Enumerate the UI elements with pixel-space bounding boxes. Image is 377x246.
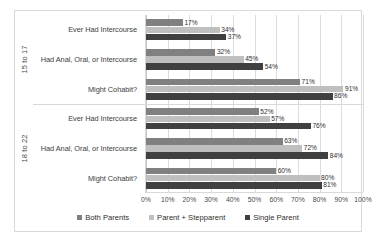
x-axis-tick-label: 40% [226, 196, 240, 203]
category-label: Might Cohabit? [33, 163, 141, 193]
category-label: Had Anal, Oral, or Intercourse [33, 45, 141, 75]
x-axis-tick-label: 10% [161, 196, 175, 203]
bar [146, 19, 183, 26]
bar [146, 27, 220, 34]
bar-value-label: 45% [245, 56, 258, 63]
category-label-text: Had Anal, Oral, or Intercourse [41, 144, 137, 153]
category-label-text: Might Cohabit? [88, 85, 137, 94]
legend-label: Single Parent [253, 213, 299, 222]
chart-plot-wrapper: 15 to 1718 to 22 Ever Had IntercourseHad… [15, 11, 361, 231]
x-axis-tick-label: 20% [183, 196, 197, 203]
group-axis-label-1: 15 to 17 [17, 15, 33, 104]
bar [146, 93, 333, 100]
gridline [363, 15, 364, 192]
group-axis: 15 to 1718 to 22 [17, 15, 33, 193]
bar [146, 63, 263, 70]
bar-group: 52%57%76% [146, 104, 363, 134]
bar-value-label: 76% [312, 123, 325, 130]
bars-plot-area: 17%34%37%32%45%54%71%91%86%52%57%76%63%7… [146, 15, 363, 193]
bar-value-label: 84% [330, 153, 343, 160]
bar [146, 138, 283, 145]
bar-value-label: 60% [278, 168, 291, 175]
bar [146, 56, 244, 63]
x-axis-tick-label: 90% [334, 196, 348, 203]
bar [146, 168, 276, 175]
bar-value-label: 54% [265, 64, 278, 71]
x-axis-tick-label: 0% [141, 196, 151, 203]
bar-value-label: 72% [304, 145, 317, 152]
bar [146, 79, 300, 86]
legend-item-3[interactable]: Single Parent [245, 213, 299, 222]
category-label-text: Might Cohabit? [88, 174, 137, 183]
bar [146, 145, 302, 152]
group-axis-label-2: 18 to 22 [17, 104, 33, 193]
group-axis-label-text: 18 to 22 [21, 135, 30, 163]
x-axis: 0%10%20%30%40%50%60%70%80%90%100% [146, 194, 363, 206]
legend-item-2[interactable]: Parent + Stepparent [149, 213, 225, 222]
bar [146, 108, 259, 115]
chart-container: 15 to 1718 to 22 Ever Had IntercourseHad… [14, 10, 362, 232]
category-label: Ever Had Intercourse [33, 15, 141, 45]
group-axis-label-text: 15 to 17 [21, 46, 30, 74]
bar-group: 32%45%54% [146, 45, 363, 75]
x-axis-tick-label: 50% [248, 196, 262, 203]
category-label-text: Ever Had Intercourse [68, 114, 137, 123]
category-label: Might Cohabit? [33, 74, 141, 104]
bar [146, 175, 320, 182]
x-axis-tick-label: 70% [291, 196, 305, 203]
bar [146, 86, 343, 93]
legend-swatch-icon [149, 215, 154, 220]
legend-item-1[interactable]: Both Parents [77, 213, 129, 222]
legend-label: Both Parents [85, 213, 129, 222]
x-axis-tick-label: 60% [269, 196, 283, 203]
bar [146, 34, 226, 41]
bar-value-label: 81% [323, 182, 336, 189]
bar-group: 60%80%81% [146, 163, 363, 193]
bar [146, 116, 270, 123]
legend-swatch-icon [245, 215, 250, 220]
x-axis-tick-label: 30% [204, 196, 218, 203]
bar [146, 49, 215, 56]
bar-value-label: 17% [184, 20, 197, 27]
bar-value-label: 57% [271, 116, 284, 123]
bar-value-label: 86% [334, 93, 347, 100]
chart-legend: Both ParentsParent + StepparentSingle Pa… [15, 209, 361, 225]
bar-value-label: 32% [217, 49, 230, 56]
bar-group: 71%91%86% [146, 74, 363, 104]
category-label-text: Had Anal, Oral, or Intercourse [41, 55, 137, 64]
bar-value-label: 37% [228, 34, 241, 41]
x-axis-tick-label: 80% [313, 196, 327, 203]
category-label-text: Ever Had Intercourse [68, 25, 137, 34]
legend-label: Parent + Stepparent [157, 213, 225, 222]
category-axis: Ever Had IntercourseHad Anal, Oral, or I… [33, 15, 146, 193]
category-label: Ever Had Intercourse [33, 104, 141, 134]
legend-swatch-icon [77, 215, 82, 220]
bar-group: 17%34%37% [146, 15, 363, 45]
bar-value-label: 63% [284, 138, 297, 145]
bar-value-label: 71% [302, 79, 315, 86]
bar-group: 63%72%84% [146, 134, 363, 164]
bar [146, 123, 311, 130]
bar [146, 152, 328, 159]
bar [146, 182, 322, 189]
category-label: Had Anal, Oral, or Intercourse [33, 134, 141, 164]
x-axis-tick-label: 100% [354, 196, 371, 203]
